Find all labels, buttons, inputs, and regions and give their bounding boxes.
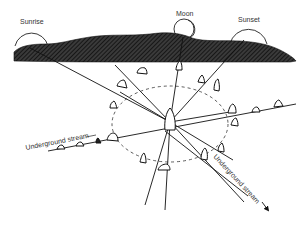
underground-stream-southeast-label: Underground stream [212, 153, 262, 206]
hill-horizon [14, 33, 296, 62]
sunrise-label: Sunrise [20, 18, 44, 25]
stones [57, 61, 283, 170]
stone-circle-alignment-diagram: Sunrise Moon Sunset Underground stream U… [0, 0, 307, 228]
sightlines [30, 37, 244, 210]
underground-stream-southeast-line [170, 122, 244, 202]
sunset-label: Sunset [238, 16, 260, 23]
center-stone [165, 108, 176, 130]
moon-label: Moon [176, 10, 194, 17]
